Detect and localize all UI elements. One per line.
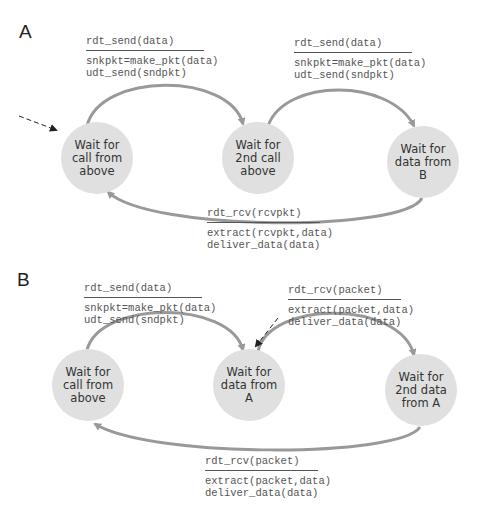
state-text: Wait for call from above (63, 366, 113, 405)
action: snkpkt=make_pkt(data) udt_send(sndpkt) (84, 298, 202, 326)
transition-label-b3-b1: rdt_rcv(packet) extract(packet,data) del… (205, 455, 318, 499)
state-wait-for-call-from-above-a: Wait for call from above (61, 122, 133, 194)
transition-a1-a2 (87, 85, 243, 126)
event: rdt_rcv(packet) (288, 284, 401, 300)
transition-a2-a3 (268, 90, 414, 126)
action: extract(packet,data) deliver_data(data) (288, 300, 401, 328)
initial-arrow-a (19, 116, 56, 130)
event: rdt_send(data) (84, 282, 202, 298)
state-text: Wait for data from B (395, 143, 451, 182)
action: snkpkt=make_pkt(data) udt_send(sndpkt) (86, 51, 204, 79)
panel-label-a: A (19, 21, 32, 43)
transition-label-a3-a1: rdt_rcv(rcvpkt) extract(rcvpkt,data) del… (207, 207, 320, 251)
state-wait-for-data-from-b: Wait for data from B (387, 126, 459, 198)
event: rdt_send(data) (86, 35, 204, 51)
transition-label-a1-a2: rdt_send(data) snkpkt=make_pkt(data) udt… (86, 35, 204, 79)
state-wait-for-2nd-call-above: Wait for 2nd call above (222, 122, 294, 194)
state-wait-for-data-from-a: Wait for data from A (213, 349, 285, 421)
state-text: Wait for 2nd data from A (395, 371, 446, 410)
state-wait-for-call-from-above-b: Wait for call from above (52, 349, 124, 421)
state-wait-for-2nd-data-from-a: Wait for 2nd data from A (385, 354, 457, 426)
panel-label-b: B (17, 269, 30, 291)
transition-label-a2-a3: rdt_send(data) snkpkt=make_pkt(data) udt… (294, 37, 412, 81)
event: rdt_rcv(rcvpkt) (207, 207, 320, 223)
event: rdt_send(data) (294, 37, 412, 53)
state-text: Wait for data from A (221, 366, 277, 405)
event: rdt_rcv(packet) (205, 455, 318, 471)
transition-label-b1-b2: rdt_send(data) snkpkt=make_pkt(data) udt… (84, 282, 202, 326)
state-text: Wait for 2nd call above (235, 139, 280, 178)
action: extract(packet,data) deliver_data(data) (205, 471, 318, 499)
initial-arrow-b (256, 318, 278, 346)
action: extract(rcvpkt,data) deliver_data(data) (207, 223, 320, 251)
transition-b3-b1 (95, 424, 420, 450)
state-text: Wait for call from above (72, 139, 122, 178)
action: snkpkt=make_pkt(data) udt_send(sndpkt) (294, 53, 412, 81)
transition-label-b2-b3: rdt_rcv(packet) extract(packet,data) del… (288, 284, 401, 328)
